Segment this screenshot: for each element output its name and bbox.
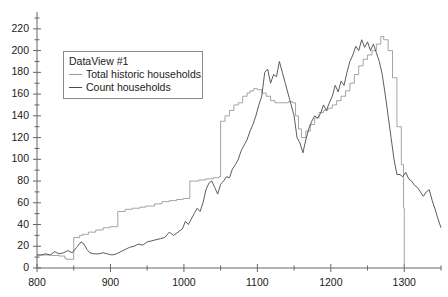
- chart-legend: DataView #1 Total historic households Co…: [63, 51, 203, 99]
- x-axis-tick-label: 1200: [317, 276, 345, 288]
- chart-root: DataView #1 Total historic households Co…: [0, 0, 448, 297]
- y-axis-tick-label: 0: [0, 261, 29, 273]
- legend-entry-count-households: Count households: [69, 81, 197, 94]
- y-axis-tick-label: 180: [0, 65, 29, 77]
- y-axis-tick-label: 40: [0, 218, 29, 230]
- y-axis-tick-label: 140: [0, 109, 29, 121]
- y-axis-tick-label: 160: [0, 87, 29, 99]
- y-axis-tick-label: 220: [0, 22, 29, 34]
- x-axis-tick-label: 900: [96, 276, 124, 288]
- legend-entry-label: Total historic households: [86, 68, 201, 81]
- legend-title: DataView #1: [69, 55, 197, 68]
- legend-swatch-line: [69, 87, 82, 88]
- legend-entry-label: Count households: [86, 81, 171, 94]
- y-axis-tick-label: 100: [0, 152, 29, 164]
- y-axis-tick-label: 120: [0, 131, 29, 143]
- line-chart-canvas: [0, 0, 448, 297]
- y-axis-tick-label: 80: [0, 174, 29, 186]
- x-axis-tick-label: 1300: [390, 276, 418, 288]
- y-axis-tick-label: 200: [0, 44, 29, 56]
- y-axis-tick-label: 20: [0, 239, 29, 251]
- legend-swatch-line: [69, 74, 82, 75]
- legend-entry-total-historic-households: Total historic households: [69, 68, 197, 81]
- y-axis-tick-label: 60: [0, 196, 29, 208]
- x-axis-tick-label: 1100: [243, 276, 271, 288]
- x-axis-tick-label: 1000: [170, 276, 198, 288]
- x-axis-tick-label: 800: [23, 276, 51, 288]
